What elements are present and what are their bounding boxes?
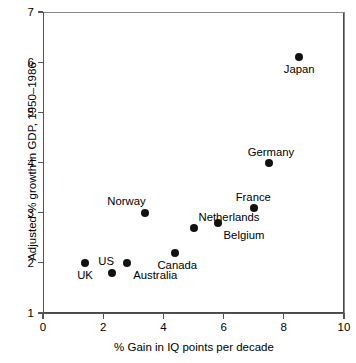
y-tick-label: 7: [0, 6, 34, 18]
x-tick-label: 4: [151, 321, 175, 333]
x-axis-title: % Gain in IQ points per decade: [43, 341, 345, 354]
data-point: [123, 259, 131, 267]
data-point: [250, 204, 258, 212]
y-tick-mark: [38, 112, 43, 113]
data-point: [171, 249, 179, 257]
data-point-label: France: [236, 191, 271, 203]
data-point: [141, 209, 149, 217]
data-point-label: Japan: [284, 63, 315, 75]
y-tick-mark: [38, 162, 43, 163]
data-point: [190, 224, 198, 232]
data-point-label: Belgium: [224, 229, 265, 241]
y-tick-mark: [38, 11, 43, 12]
y-axis-title: Adjusted % growth in GDP, 1950–1986: [26, 42, 39, 282]
axis-bottom-spine: [43, 313, 345, 314]
x-tick-label: 0: [31, 321, 55, 333]
data-point-label: Netherlands: [199, 211, 260, 223]
y-tick-mark: [38, 212, 43, 213]
y-tick-mark: [38, 262, 43, 263]
x-tick-mark: [163, 314, 164, 319]
y-tick-mark: [38, 62, 43, 63]
data-point-label: Germany: [248, 146, 294, 158]
x-tick-label: 10: [332, 321, 356, 333]
x-tick-mark: [42, 314, 43, 319]
x-tick-mark: [103, 314, 104, 319]
data-point: [214, 219, 222, 227]
data-point: [81, 259, 89, 267]
x-tick-mark: [343, 314, 344, 319]
y-tick-label: 1: [0, 307, 34, 319]
x-tick-mark: [223, 314, 224, 319]
scatter-chart: 1234567 0246810 UKUSAustraliaNorwayCanad…: [0, 0, 356, 363]
data-point-label: Norway: [107, 195, 145, 207]
data-point: [295, 53, 303, 61]
x-tick-label: 8: [272, 321, 296, 333]
data-point-label: Canada: [157, 259, 197, 271]
axis-left-spine: [43, 12, 44, 314]
data-point-label: UK: [77, 269, 93, 281]
data-point-label: US: [98, 255, 114, 267]
data-point: [265, 159, 273, 167]
x-tick-mark: [283, 314, 284, 319]
x-tick-label: 6: [212, 321, 236, 333]
data-point: [108, 269, 116, 277]
axis-right-spine: [344, 12, 345, 314]
axis-top-spine: [43, 12, 345, 13]
x-tick-label: 2: [91, 321, 115, 333]
